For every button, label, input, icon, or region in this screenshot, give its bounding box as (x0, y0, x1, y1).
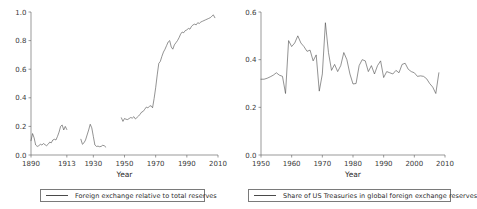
foreign-exchange-share-xtick-label: 1930 (84, 160, 102, 168)
foreign-exchange-share-xtick-label: 2010 (209, 160, 227, 168)
foreign-exchange-share-xaxis-title: Year (116, 170, 134, 179)
foreign-exchange-share-xtick-label: 1890 (22, 160, 40, 168)
us-treasuries-share-xtick-label: 1950 (252, 160, 270, 168)
legend-line-sample-right (254, 195, 276, 196)
foreign-exchange-share-axis-spines (31, 12, 218, 155)
foreign-exchange-share-xtick-label: 1990 (178, 160, 196, 168)
foreign-exchange-share-series-line (121, 15, 215, 122)
foreign-exchange-share-series-line (81, 124, 106, 147)
us-treasuries-share-xtick-label: 1990 (375, 160, 393, 168)
us-treasuries-share-xtick-label: 1980 (344, 160, 362, 168)
left-chart-svg: 0.00.20.40.60.81.01890191319301950197019… (0, 0, 229, 209)
us-treasuries-share-xtick-label: 2000 (405, 160, 423, 168)
us-treasuries-share-xtick-label: 1960 (283, 160, 301, 168)
us-treasuries-share-ytick-label: 0.6 (245, 9, 257, 17)
foreign-exchange-share-ytick-label: 0.8 (15, 37, 26, 45)
us-treasuries-share-ytick-label: 0.2 (245, 104, 256, 112)
legend-left: Foreign exchange relative to total reser… (40, 189, 205, 202)
us-treasuries-share-ytick-label: 0.4 (245, 56, 257, 64)
foreign-exchange-share-ytick-label: 0.4 (15, 94, 27, 102)
right-chart-svg: 0.00.20.40.61950196019701980199020002010… (230, 0, 459, 209)
us-treasuries-share-xtick-label: 2010 (436, 160, 454, 168)
foreign-exchange-share-xtick-label: 1970 (147, 160, 165, 168)
foreign-exchange-share-xtick-label: 1950 (116, 160, 134, 168)
foreign-exchange-share-ytick-label: 0.2 (15, 123, 26, 131)
us-treasuries-share-xaxis-title: Year (344, 170, 362, 179)
chart-panel-right: 0.00.20.40.61950196019701980199020002010… (230, 0, 459, 209)
foreign-exchange-share-ytick-label: 1.0 (15, 9, 26, 17)
legend-line-sample-left (46, 195, 68, 196)
foreign-exchange-share-series-line (31, 125, 67, 146)
foreign-exchange-share-xtick-label: 1913 (58, 160, 76, 168)
foreign-exchange-share-ytick-label: 0.0 (15, 152, 26, 160)
legend-label-right: Share of US Treasuries in global foreign… (283, 192, 477, 200)
chart-panel-left: 0.00.20.40.60.81.01890191319301950197019… (0, 0, 229, 209)
us-treasuries-share-series-line (261, 23, 439, 94)
us-treasuries-share-ytick-label: 0.0 (245, 152, 256, 160)
us-treasuries-share-xtick-label: 1970 (313, 160, 331, 168)
legend-right: Share of US Treasuries in global foreign… (248, 189, 451, 202)
foreign-exchange-share-ytick-label: 0.6 (15, 66, 27, 74)
legend-label-left: Foreign exchange relative to total reser… (75, 192, 217, 200)
